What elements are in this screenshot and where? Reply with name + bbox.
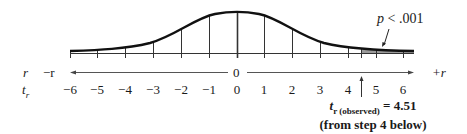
tick-label: −5 <box>87 82 107 98</box>
tick-label: −3 <box>143 82 163 98</box>
tick-label: −4 <box>115 82 135 98</box>
tick-label: 0 <box>227 82 247 98</box>
tick-label: 2 <box>282 82 302 98</box>
tick-label: 6 <box>393 82 413 98</box>
p-value-label: p < .001 <box>377 12 423 25</box>
tick-label: 1 <box>254 82 274 98</box>
ordinate-lines <box>71 12 404 58</box>
tick-label: −2 <box>171 82 191 98</box>
arrow-left-icon <box>70 71 76 75</box>
t-row-label: tr <box>22 83 29 102</box>
tick-label: −6 <box>60 82 80 98</box>
arrow-right-icon <box>408 71 414 75</box>
zero-r-label: 0 <box>233 66 240 79</box>
neg-r-text: −r <box>43 65 55 80</box>
obs-t-sub: r (observed) <box>333 106 380 116</box>
p-value-pointer <box>384 29 389 45</box>
obs-t-number: = 4.51 <box>380 98 417 113</box>
pos-r-label: +r <box>432 66 446 79</box>
t-row-sub: r <box>26 90 30 100</box>
tick-label: −1 <box>199 82 219 98</box>
tick-label: 5 <box>366 82 386 98</box>
p-value-pointer-head <box>382 42 386 47</box>
tick-label: 4 <box>338 82 358 98</box>
arrow-up-icon <box>360 76 364 81</box>
distribution-curve <box>70 12 414 51</box>
observed-t-note: (from step 4 below) <box>318 118 428 132</box>
p-value-text: < .001 <box>384 11 423 26</box>
tick-label: 3 <box>310 82 330 98</box>
observed-t-annotation: tr (observed) = 4.51 (from step 4 below) <box>318 99 428 132</box>
p-symbol: p <box>377 11 384 26</box>
neg-r-label: −r <box>43 66 55 79</box>
observed-t-value: tr (observed) = 4.51 <box>318 99 428 118</box>
r-row-label: r <box>23 66 28 79</box>
